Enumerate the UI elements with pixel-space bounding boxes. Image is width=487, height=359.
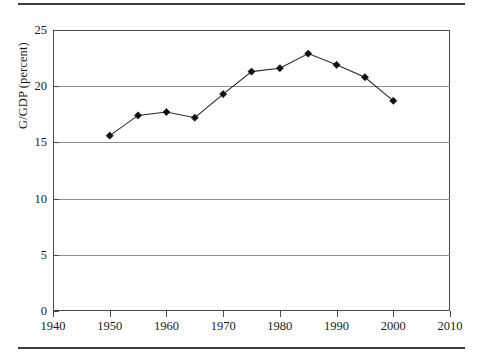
data-series-svg <box>53 30 450 311</box>
x-tick-mark-2010 <box>450 311 451 317</box>
y-tick-label-0: 0 <box>27 305 47 318</box>
data-point-1960 <box>163 108 170 115</box>
x-tick-label-1950: 1950 <box>97 320 122 333</box>
data-point-1950 <box>106 132 113 139</box>
y-tick-label-15: 15 <box>27 136 47 149</box>
y-tick-label-20: 20 <box>27 80 47 93</box>
x-tick-label-1980: 1980 <box>267 320 292 333</box>
y-axis-label: G/GDP (percent) <box>16 113 31 129</box>
top-horizontal-rule <box>18 3 465 5</box>
x-tick-mark-1940 <box>53 311 54 317</box>
x-tick-label-1990: 1990 <box>324 320 349 333</box>
data-point-1980 <box>276 65 283 72</box>
series-line <box>110 54 394 136</box>
x-tick-mark-1950 <box>110 311 111 317</box>
x-tick-label-2000: 2000 <box>381 320 406 333</box>
x-tick-mark-1970 <box>223 311 224 317</box>
x-tick-label-1970: 1970 <box>211 320 236 333</box>
x-tick-mark-1980 <box>280 311 281 317</box>
data-point-1985 <box>305 50 312 57</box>
x-tick-label-1940: 1940 <box>41 320 66 333</box>
plot-area: 0510152025 19401950196019701980199020002… <box>53 30 450 311</box>
x-tick-mark-1990 <box>337 311 338 317</box>
y-tick-label-25: 25 <box>27 24 47 37</box>
x-tick-mark-1960 <box>166 311 167 317</box>
y-tick-label-5: 5 <box>27 249 47 262</box>
x-tick-mark-2000 <box>393 311 394 317</box>
x-tick-label-1960: 1960 <box>154 320 179 333</box>
bottom-horizontal-rule <box>18 347 465 349</box>
x-tick-label-2010: 2010 <box>438 320 463 333</box>
figure-container: G/GDP (percent) 0510152025 1940195019601… <box>0 0 487 359</box>
data-point-1955 <box>134 112 141 119</box>
y-tick-label-10: 10 <box>27 193 47 206</box>
data-point-1990 <box>333 61 340 68</box>
